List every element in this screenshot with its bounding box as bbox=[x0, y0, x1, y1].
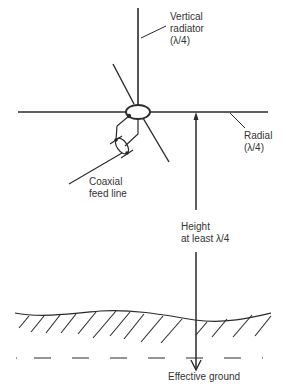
radial-diagonal-upper bbox=[113, 64, 134, 104]
radial-leader bbox=[230, 113, 245, 128]
ground-hatching bbox=[19, 311, 271, 343]
vertical-radiator-leader bbox=[141, 26, 166, 38]
effective-ground-label: Effective ground bbox=[168, 371, 240, 382]
antenna-diagram: Vertical radiator (λ/4) Radial (λ/4) Coa… bbox=[0, 0, 286, 384]
coax-shield-conductor bbox=[125, 118, 138, 146]
height-label: Height at least λ/4 bbox=[181, 221, 230, 244]
coax-inner-conductor bbox=[116, 116, 129, 140]
coax-tick-lower bbox=[121, 150, 133, 158]
radial-diagonal-lower bbox=[143, 118, 169, 162]
height-arrowhead-up bbox=[194, 112, 199, 120]
radial-label: Radial (λ/4) bbox=[244, 130, 275, 153]
coaxial-feed-line-label: Coaxial feed line bbox=[89, 176, 127, 199]
vertical-radiator-label: Vertical radiator (λ/4) bbox=[170, 11, 207, 46]
